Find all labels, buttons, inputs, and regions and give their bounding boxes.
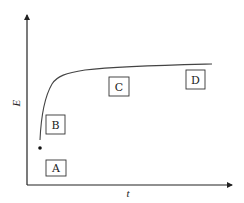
- y-axis-label: E: [10, 99, 22, 107]
- label-a-text: A: [51, 162, 61, 175]
- label-box-c: C: [109, 77, 129, 96]
- label-c-text: C: [115, 81, 123, 94]
- start-point-marker: [38, 146, 42, 150]
- label-d-text: D: [191, 74, 200, 87]
- label-box-b: B: [46, 115, 65, 134]
- x-axis-label: t: [126, 187, 130, 199]
- label-b-text: B: [51, 119, 59, 132]
- energy-time-diagram: E t A B C D: [0, 0, 244, 203]
- label-box-d: D: [186, 70, 205, 89]
- label-box-a: A: [46, 160, 66, 176]
